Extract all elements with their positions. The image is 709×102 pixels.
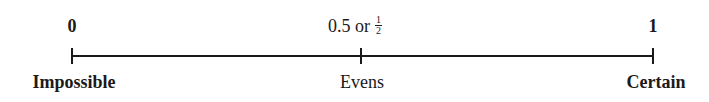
value-label-half: 0.5 or12	[328, 16, 382, 38]
tick-evens	[360, 48, 362, 64]
tick-impossible	[71, 48, 73, 64]
label-impossible: Impossible	[32, 72, 115, 93]
fraction-one-half: 12	[375, 15, 382, 36]
value-label-half-decimal: 0.5 or	[328, 16, 370, 36]
scale-line	[72, 55, 654, 57]
value-label-zero: 0	[68, 16, 77, 37]
fraction-denominator: 2	[375, 26, 382, 36]
label-certain: Certain	[627, 72, 686, 93]
tick-certain	[652, 48, 654, 64]
value-label-one: 1	[649, 16, 658, 37]
probability-scale: 0 0.5 or12 1 Impossible Evens Certain	[0, 0, 709, 102]
label-evens: Evens	[340, 72, 384, 93]
